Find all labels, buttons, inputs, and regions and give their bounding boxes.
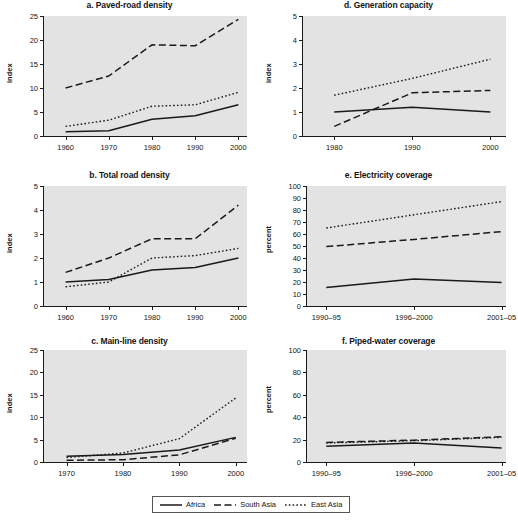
y-tick-label-d: 0 (271, 132, 297, 141)
panel-title-b: b. Total road density (0, 170, 259, 180)
y-tick-label-d: 5 (271, 12, 297, 21)
x-tick-label-e: 1996–2000 (395, 313, 433, 322)
y-tick-label-e: 70 (275, 218, 301, 227)
plot-region-e: 01020304050607080901001990–951996–200020… (307, 186, 506, 306)
x-tick-mark-b (109, 306, 110, 310)
y-tick-label-c: 15 (12, 390, 38, 399)
legend-item-africa: Africa (160, 500, 205, 509)
x-tick-mark-a (109, 136, 110, 140)
y-tick-label-c: 5 (12, 435, 38, 444)
chart-panel-e: e. Electricity coverage01020304050607080… (259, 170, 518, 340)
panel-title-a: a. Paved-road density (0, 0, 259, 10)
panel-title-e: e. Electricity coverage (259, 170, 518, 180)
y-tick-label-b: 0 (12, 302, 38, 311)
x-tick-label-b: 1980 (144, 313, 161, 322)
x-tick-label-a: 2000 (230, 143, 247, 152)
x-tick-mark-e (502, 306, 503, 310)
x-axis-line-d (302, 136, 506, 137)
plot-region-d: 012345198019902000 (303, 16, 506, 136)
series-line-f-africa (326, 443, 501, 448)
x-tick-mark-e (414, 306, 415, 310)
chart-panel-c: c. Main-line density05101520251970198019… (0, 336, 259, 496)
x-axis-line-a (43, 136, 247, 137)
x-tick-mark-f (414, 462, 415, 466)
x-tick-label-a: 1980 (144, 143, 161, 152)
y-tick-mark-d (299, 136, 303, 137)
y-tick-label-e: 90 (275, 194, 301, 203)
x-tick-label-c: 2000 (227, 469, 244, 478)
x-tick-mark-a (238, 136, 239, 140)
legend-item-east-asia: East Asia (285, 500, 342, 509)
x-tick-mark-c (179, 462, 180, 466)
series-line-c-east-asia (67, 398, 236, 458)
y-tick-label-d: 4 (271, 36, 297, 45)
x-axis-line-b (43, 306, 247, 307)
y-tick-label-a: 5 (12, 108, 38, 117)
chart-legend: AfricaSouth AsiaEast Asia (152, 496, 350, 513)
y-tick-label-a: 0 (12, 132, 38, 141)
y-tick-label-e: 40 (275, 254, 301, 263)
panel-title-d: d. Generation capacity (259, 0, 518, 10)
x-tick-mark-a (195, 136, 196, 140)
x-tick-label-f: 1990–95 (312, 469, 341, 478)
x-tick-label-f: 2001–05 (487, 469, 516, 478)
x-tick-label-a: 1990 (187, 143, 204, 152)
series-line-e-south-asia (326, 232, 501, 247)
x-tick-label-a: 1970 (100, 143, 117, 152)
series-line-a-africa (66, 105, 239, 132)
x-tick-label-d: 1980 (326, 143, 343, 152)
y-axis-label-c: index (5, 399, 14, 413)
y-tick-mark-a (40, 136, 44, 137)
x-tick-mark-a (66, 136, 67, 140)
series-line-b-africa (66, 258, 239, 282)
legend-swatch-dotted-icon (285, 501, 307, 509)
y-tick-label-f: 60 (275, 390, 301, 399)
x-axis-line-f (306, 462, 506, 463)
series-line-c-south-asia (67, 438, 236, 460)
y-tick-label-f: 80 (275, 368, 301, 377)
series-line-c-africa (67, 437, 236, 456)
y-tick-label-e: 30 (275, 266, 301, 275)
plot-region-a: 051015202519601970198019902000 (44, 16, 247, 136)
y-tick-label-e: 20 (275, 278, 301, 287)
x-tick-label-c: 1990 (171, 469, 188, 478)
x-tick-mark-b (195, 306, 196, 310)
x-tick-label-a: 1960 (57, 143, 74, 152)
y-tick-label-f: 40 (275, 413, 301, 422)
y-tick-mark-f (303, 462, 307, 463)
x-tick-label-b: 1990 (187, 313, 204, 322)
y-tick-label-d: 1 (271, 108, 297, 117)
series-layer-c (44, 350, 247, 462)
y-tick-label-e: 0 (275, 302, 301, 311)
y-tick-mark-b (40, 306, 44, 307)
y-tick-label-f: 0 (275, 458, 301, 467)
legend-swatch-dashed-icon (214, 501, 236, 509)
x-tick-mark-b (238, 306, 239, 310)
y-tick-label-c: 10 (12, 413, 38, 422)
y-tick-label-e: 60 (275, 230, 301, 239)
y-tick-label-d: 2 (271, 84, 297, 93)
x-tick-mark-f (326, 462, 327, 466)
series-line-e-east-asia (326, 202, 501, 228)
x-axis-line-c (43, 462, 247, 463)
y-tick-label-b: 5 (12, 182, 38, 191)
y-axis-label-b: index (5, 239, 14, 253)
series-line-d-east-asia (334, 59, 490, 95)
x-tick-mark-d (490, 136, 491, 140)
x-tick-label-b: 2000 (230, 313, 247, 322)
legend-label: South Asia (240, 500, 276, 509)
x-tick-label-f: 1996–2000 (395, 469, 433, 478)
x-tick-label-b: 1970 (100, 313, 117, 322)
y-axis-label-e: percent (264, 239, 273, 253)
series-line-e-africa (326, 279, 501, 287)
y-tick-label-b: 1 (12, 278, 38, 287)
y-tick-label-b: 3 (12, 230, 38, 239)
y-tick-label-b: 2 (12, 254, 38, 263)
y-tick-label-c: 20 (12, 368, 38, 377)
x-tick-mark-c (236, 462, 237, 466)
series-line-d-south-asia (334, 90, 490, 126)
x-tick-label-b: 1960 (57, 313, 74, 322)
y-axis-label-d: index (264, 69, 273, 83)
x-tick-mark-a (152, 136, 153, 140)
y-tick-label-e: 80 (275, 206, 301, 215)
